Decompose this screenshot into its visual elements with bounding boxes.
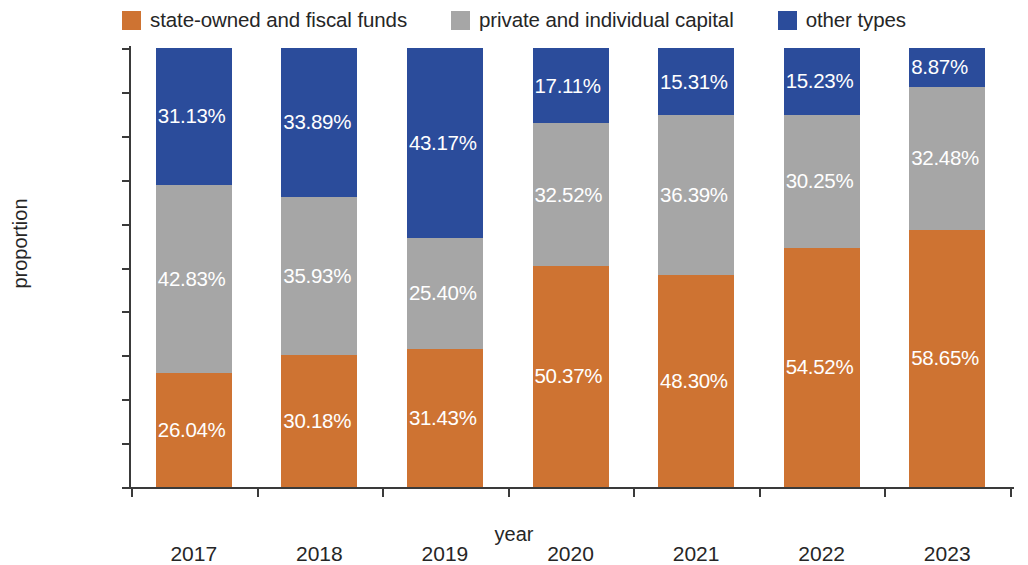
- bar-segment-value-label: 30.18%: [283, 409, 351, 433]
- bar-segment[interactable]: 54.52%: [784, 248, 860, 487]
- legend-item-label: private and individual capital: [479, 8, 734, 32]
- y-axis-title: proportion: [9, 119, 32, 369]
- bar-segment[interactable]: 36.39%: [658, 115, 734, 275]
- y-axis-tick: [122, 443, 131, 445]
- bar-segment-value-label: 17.11%: [535, 74, 601, 98]
- bar-segment-value-label: 15.23%: [786, 69, 854, 93]
- x-axis-tick: [257, 487, 259, 497]
- bar-segment[interactable]: 35.93%: [281, 197, 357, 355]
- plot-area: 100.00%90.00%80.00%70.00%60.00%50.00%40.…: [131, 48, 1010, 487]
- y-axis-tick: [122, 48, 131, 50]
- y-axis-tick: [122, 92, 131, 94]
- legend-swatch-icon: [778, 11, 797, 30]
- bar-segment-value-label: 36.39%: [660, 183, 728, 207]
- bar-segment-value-label: 15.31%: [660, 70, 728, 94]
- bar-segment-value-label: 33.89%: [283, 110, 351, 134]
- x-axis-line: [129, 487, 1014, 489]
- bar-segment-value-label: 50.37%: [535, 364, 603, 388]
- bar-segment[interactable]: 30.25%: [784, 115, 860, 248]
- x-axis-tick: [759, 487, 761, 497]
- legend-item-label: other types: [806, 8, 906, 32]
- x-axis-tick: [1010, 487, 1012, 497]
- y-axis-tick: [122, 311, 131, 313]
- legend-item-private-and-individual-capital[interactable]: private and individual capital: [451, 8, 734, 32]
- y-axis-tick: [122, 224, 131, 226]
- y-axis-tick: [122, 136, 131, 138]
- x-axis-title: year: [0, 523, 1028, 546]
- bar-segment-value-label: 32.48%: [911, 146, 979, 170]
- y-axis-tick: [122, 180, 131, 182]
- bar-segment-value-label: 8.87%: [911, 55, 968, 79]
- bar-segment-value-label: 26.04%: [158, 418, 226, 442]
- bar-segment-value-label: 35.93%: [283, 264, 351, 288]
- bar-segment[interactable]: 25.40%: [407, 238, 483, 350]
- bar-segment-value-label: 48.30%: [660, 369, 728, 393]
- x-axis-tick: [131, 487, 133, 497]
- x-axis-tick: [508, 487, 510, 497]
- bar-segment[interactable]: 58.65%: [909, 230, 985, 487]
- bar-segment-value-label: 32.52%: [535, 183, 603, 207]
- bar-segment[interactable]: 17.11%: [533, 48, 609, 123]
- bar-segment[interactable]: 30.18%: [281, 355, 357, 487]
- y-axis-tick: [122, 268, 131, 270]
- bar-segment-value-label: 58.65%: [911, 346, 979, 370]
- bar-segment[interactable]: 33.89%: [281, 48, 357, 197]
- x-axis-tick: [633, 487, 635, 497]
- bar-segment[interactable]: 48.30%: [658, 275, 734, 487]
- x-axis-tick: [884, 487, 886, 497]
- legend-swatch-icon: [122, 11, 141, 30]
- bar-segment-value-label: 54.52%: [786, 355, 854, 379]
- y-axis-tick: [122, 399, 131, 401]
- bar-segment[interactable]: 15.31%: [658, 48, 734, 115]
- bar-segment[interactable]: 42.83%: [156, 185, 232, 373]
- bar-segment-value-label: 42.83%: [158, 267, 226, 291]
- bar-segment[interactable]: 32.48%: [909, 87, 985, 230]
- bar-segment[interactable]: 8.87%: [909, 48, 985, 87]
- bar-segment-value-label: 43.17%: [409, 131, 477, 155]
- bar-segment-value-label: 31.43%: [409, 406, 477, 430]
- bar-segment[interactable]: 50.37%: [533, 266, 609, 487]
- bar-segment-value-label: 30.25%: [786, 169, 854, 193]
- legend-item-state-owned-and-fiscal-funds[interactable]: state-owned and fiscal funds: [122, 8, 407, 32]
- chart-legend: state-owned and fiscal funds private and…: [0, 4, 1028, 36]
- y-axis-tick: [122, 355, 131, 357]
- bar-segment[interactable]: 31.13%: [156, 48, 232, 185]
- bar-segment-value-label: 31.13%: [158, 104, 226, 128]
- bar-segment[interactable]: 26.04%: [156, 373, 232, 487]
- bar-segment[interactable]: 15.23%: [784, 48, 860, 115]
- bar-segment[interactable]: 31.43%: [407, 349, 483, 487]
- y-axis-tick: [122, 487, 131, 489]
- legend-item-other-types[interactable]: other types: [778, 8, 906, 32]
- legend-swatch-icon: [451, 11, 470, 30]
- bar-segment[interactable]: 32.52%: [533, 123, 609, 266]
- legend-item-label: state-owned and fiscal funds: [150, 8, 407, 32]
- bar-segment[interactable]: 43.17%: [407, 48, 483, 238]
- x-axis-tick: [382, 487, 384, 497]
- bar-segment-value-label: 25.40%: [409, 281, 477, 305]
